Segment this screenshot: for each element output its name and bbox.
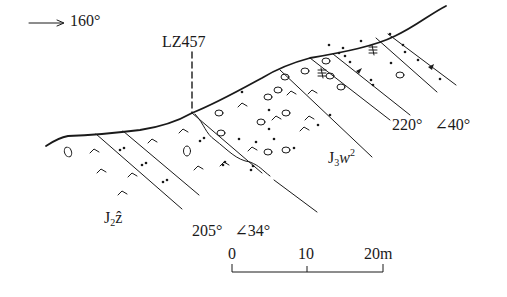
sample-label: LZ457 (162, 34, 206, 50)
volcanic-rock-symbols (90, 90, 317, 195)
strike-value: 205° (192, 222, 222, 239)
formation-label-J2z: J2ẑ (104, 210, 122, 228)
dip-value: ∠40° (434, 116, 470, 133)
dip-value: ∠34° (234, 222, 270, 239)
direction-arrow-icon (29, 20, 64, 26)
attitude-lower: 205° ∠34° (192, 223, 270, 239)
strike-value: 220° (392, 116, 422, 133)
gravel-symbols (63, 58, 404, 158)
sand-dot-symbols (119, 33, 442, 184)
scale-tick-10: 10 (298, 246, 314, 262)
attitude-upper-right: 220° ∠40° (392, 117, 470, 133)
scale-bar (232, 264, 383, 272)
cross-section-drawing (0, 0, 507, 297)
scale-tick-20m: 20m (364, 246, 392, 262)
ground-surface-line (46, 6, 446, 146)
scale-tick-0: 0 (228, 246, 236, 262)
tuff-symbols (318, 45, 377, 78)
formation-label-J3w2: J3w2 (328, 148, 355, 168)
direction-label: 160° (70, 13, 100, 29)
